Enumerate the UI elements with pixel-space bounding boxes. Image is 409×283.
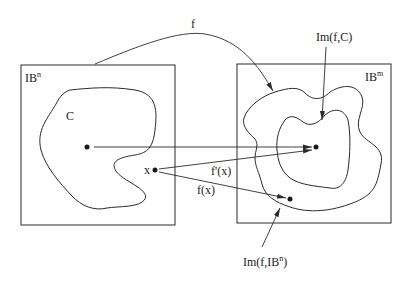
derivative-arrow <box>159 150 312 169</box>
image-domain-label: Im(f,IBn) <box>243 254 287 269</box>
domain-space-label: IBn <box>25 70 41 85</box>
value-point-dot <box>288 197 293 202</box>
point-x-dot <box>153 168 158 173</box>
image-domain-pointer <box>262 208 280 247</box>
codomain-space-label: IBm <box>365 69 384 84</box>
mapping-diagram: IBn C IBm f Im(f,C) x f'(x) f(x) Im(f,IB… <box>0 0 409 283</box>
map-f-arrow <box>95 33 273 91</box>
set-c-label: C <box>66 109 74 123</box>
set-c-region <box>40 88 156 209</box>
image-of-c-region <box>277 110 350 188</box>
map-f-label: f <box>191 17 195 31</box>
codomain-space-box <box>237 64 391 223</box>
derivative-label: f'(x) <box>211 164 231 178</box>
image-c-label: Im(f,C) <box>316 30 352 44</box>
point-x-label: x <box>144 163 150 177</box>
image-point-dot <box>314 145 319 150</box>
value-label: f(x) <box>197 183 215 197</box>
domain-space-box <box>21 65 175 225</box>
image-c-pointer <box>322 47 326 120</box>
point-c-dot <box>85 145 90 150</box>
image-of-domain-region <box>243 87 381 211</box>
